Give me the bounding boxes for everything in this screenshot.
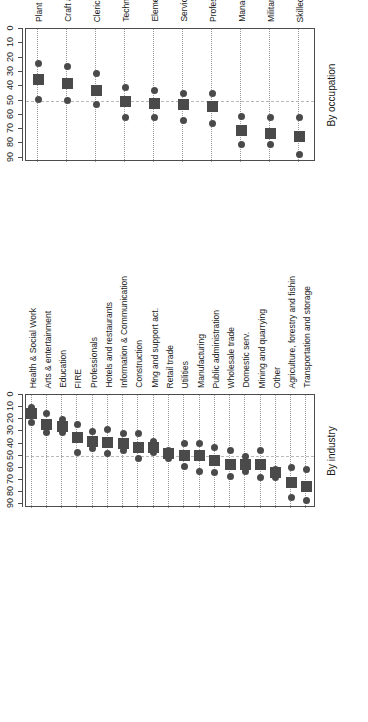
upper-bound-dot (64, 97, 71, 104)
estimate-marker (236, 125, 247, 136)
axis-tick-label: 70 (5, 474, 15, 484)
axis-tick (18, 85, 23, 86)
axis-tick-label: 70 (5, 123, 15, 133)
lower-bound-dot (151, 87, 158, 94)
panel-inner-industry: Transportation and storageAgriculture, f… (25, 394, 315, 507)
estimate-marker (207, 101, 218, 112)
axis-tick (18, 57, 23, 58)
plot-area-occupation (25, 28, 315, 161)
estimate-marker (301, 481, 312, 492)
estimate-marker (62, 78, 73, 89)
lower-bound-dot (89, 428, 96, 435)
panel-title: By industry (326, 426, 337, 475)
upper-bound-dot (227, 473, 234, 480)
category-label: Manufacturing (196, 334, 205, 388)
estimate-marker (72, 432, 83, 443)
axis-tick-label: 50 (5, 94, 15, 104)
lower-bound-dot (74, 421, 81, 428)
upper-bound-dot (181, 463, 188, 470)
estimate-marker (270, 467, 281, 478)
axis-tick-label: 10 (5, 401, 15, 411)
upper-bound-dot (43, 429, 50, 436)
axis-tick-label: 30 (5, 66, 15, 76)
category-label: Services and Sales Workers (180, 0, 189, 22)
category-gridline (275, 395, 276, 508)
axis-tick-label: 30 (5, 425, 15, 435)
category-label: Skilled Agricultural, Forestry a (296, 0, 305, 22)
axis-tick-label: 90 (5, 152, 15, 162)
lower-bound-dot (211, 444, 218, 451)
lower-bound-dot (43, 410, 50, 417)
category-label: Education (59, 350, 68, 388)
category-label: Transportation and storage (303, 286, 312, 388)
upper-bound-dot (28, 419, 35, 426)
category-label: Mng and support act. (150, 308, 159, 388)
lower-bound-dot (181, 440, 188, 447)
estimate-marker (41, 419, 52, 430)
axis-tick-label: 20 (5, 52, 15, 62)
axis-tick (18, 142, 23, 143)
axis-tick-label: 0 (5, 391, 15, 396)
upper-bound-dot (211, 469, 218, 476)
category-label: Elementary Occupations (151, 0, 160, 22)
category-label: Professionals (209, 0, 218, 22)
lower-bound-dot (257, 447, 264, 454)
category-label: Technicians and Associate Profes (122, 0, 131, 22)
category-label: Wholesale trade (227, 327, 236, 388)
category-label: Agriculture, forestry and fishin (288, 276, 297, 388)
category-gridline (244, 395, 245, 508)
estimate-marker (87, 436, 98, 447)
estimate-marker (225, 459, 236, 470)
estimate-marker (26, 408, 37, 419)
lower-bound-dot (238, 113, 245, 120)
estimate-marker (255, 459, 266, 470)
axis-tick (18, 503, 23, 504)
panel-inner-occupation: Skilled Agricultural, Forestry aMilitary… (25, 28, 315, 161)
axis-tick-label: 40 (5, 438, 15, 448)
upper-bound-dot (135, 455, 142, 462)
axis-tick (18, 418, 23, 419)
category-label: Domestic serv. (242, 332, 251, 388)
lower-bound-dot (209, 90, 216, 97)
category-label: Hotels and restaurants (104, 302, 113, 388)
upper-bound-dot (257, 474, 264, 481)
upper-bound-dot (296, 151, 303, 158)
category-label: Mining and quarrying (257, 309, 266, 388)
axis-tick (18, 467, 23, 468)
category-label: Craft and Related Trades Workers (64, 0, 73, 22)
axis-tick (18, 430, 23, 431)
category-label: Health & Social Work (28, 308, 37, 388)
estimate-marker (286, 477, 297, 488)
axis-tick (18, 28, 23, 29)
lower-bound-dot (196, 440, 203, 447)
lower-bound-dot (122, 84, 129, 91)
category-gridline (61, 395, 62, 508)
upper-bound-dot (93, 101, 100, 108)
category-gridline (214, 395, 215, 508)
axis-tick-label: 20 (5, 413, 15, 423)
category-label: Plant and Machine Operators and (35, 0, 44, 22)
category-gridline (299, 29, 300, 162)
upper-bound-dot (122, 114, 129, 121)
axis-tick (18, 128, 23, 129)
axis-tick (18, 114, 23, 115)
category-gridline (154, 29, 155, 162)
upper-bound-dot (196, 468, 203, 475)
upper-bound-dot (35, 96, 42, 103)
category-label: Other (272, 367, 281, 388)
lower-bound-dot (180, 90, 187, 97)
estimate-marker (120, 96, 131, 107)
upper-bound-dot (288, 494, 295, 501)
upper-bound-dot (267, 141, 274, 148)
axis-tick-label: 60 (5, 462, 15, 472)
axis-tick (18, 100, 23, 101)
axis-tick-label: 10 (5, 37, 15, 47)
lower-bound-dot (227, 447, 234, 454)
estimate-marker (240, 459, 251, 470)
estimate-marker (148, 442, 159, 453)
lower-bound-dot (303, 466, 310, 473)
value-axis-line (22, 394, 23, 507)
estimate-marker (91, 85, 102, 96)
estimate-marker (118, 438, 129, 449)
lower-bound-dot (104, 426, 111, 433)
